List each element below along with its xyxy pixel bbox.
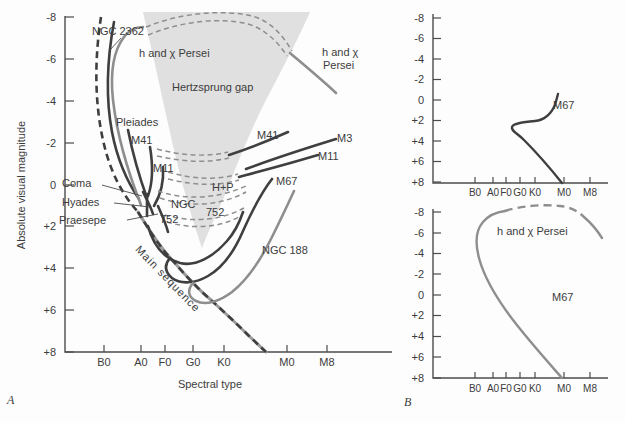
panel-b-top-axes xyxy=(433,14,608,183)
panel-b-bottom-y-tick-label: +4 xyxy=(398,330,424,343)
ngc188-label: NGC 188 xyxy=(262,244,308,257)
panel-a-y-tick-label: -4 xyxy=(30,95,56,108)
panel-a-letter: A xyxy=(7,394,14,407)
panel-b-bottom-y-tick-label: +8 xyxy=(398,372,424,385)
panel-b-letter: B xyxy=(404,396,411,409)
hertzsprung-gap-label: Hertzsprung gap xyxy=(172,81,253,94)
ngc752-label-line2: 752 xyxy=(160,213,178,226)
panel-b-top-x-tick-label: K0 xyxy=(524,186,546,199)
ngc2362-curve xyxy=(108,22,139,199)
panel-a-y-tick-label: +2 xyxy=(30,220,56,233)
panel-b-bottom-y-tick-label: -8 xyxy=(398,206,424,219)
panel-b-m67-annotation: M67 xyxy=(552,291,573,304)
panel-a-x-tick-label: F0 xyxy=(152,356,178,369)
panel-b-bottom-x-tick-label: M0 xyxy=(553,382,575,395)
panel-b-top-y-tick-label: -8 xyxy=(398,12,424,25)
panel-b-h-chi-dashed-curve xyxy=(505,205,584,217)
panel-b-top-y-tick-label: -4 xyxy=(398,53,424,66)
m3-label: M3 xyxy=(337,132,352,145)
hr-diagram-figure: NGC 2362 h and χ Persei Hertzsprung gap … xyxy=(0,0,625,423)
coma-label: Coma xyxy=(62,177,91,190)
m11-right-label: M11 xyxy=(318,150,339,163)
panel-b-bottom-y-tick-label: -6 xyxy=(398,227,424,240)
m41-left-curve xyxy=(148,147,152,196)
panel-b-bottom-x-tick-label: K0 xyxy=(524,382,546,395)
panel-a-x-tick-label: B0 xyxy=(91,356,117,369)
hyades-label: Hyades xyxy=(62,196,99,209)
panel-b-bottom-y-tick-label: +2 xyxy=(398,309,424,322)
praesepe-label: Praesepe xyxy=(59,214,106,227)
panel-b-top-y-tick-label: -6 xyxy=(398,32,424,45)
x-axis-title: Spectral type xyxy=(178,378,242,391)
panel-b-bottom-y-tick-label: -2 xyxy=(398,268,424,281)
panel-a-x-tick-label: K0 xyxy=(211,356,237,369)
panel-a-y-tick-label: +8 xyxy=(30,346,56,359)
panel-b-bottom-y-tick-label: -4 xyxy=(398,247,424,260)
panel-b-h-chi-label: h and χ Persei xyxy=(497,225,568,238)
ngc752-label-line1: NGC xyxy=(171,198,195,211)
panel-b-top-y-tick-label: +6 xyxy=(398,155,424,168)
panel-a-x-tick-label: M0 xyxy=(274,356,300,369)
panel-b-bottom-y-tick-label: 0 xyxy=(398,289,424,302)
panel-b-bottom-x-tick-label: M8 xyxy=(579,382,601,395)
panel-a-y-tick-label: -2 xyxy=(30,137,56,150)
panel-b-top-y-tick-label: -2 xyxy=(398,73,424,86)
panel-b-m67-label: M67 xyxy=(553,99,574,112)
panel-b-top-x-tick-label: M0 xyxy=(553,186,575,199)
y-axis-title: Absolute visual magnitude xyxy=(15,121,28,249)
panel-a-x-tick-label: G0 xyxy=(180,356,206,369)
h-chi-persei-right-label-line2: Persei xyxy=(323,59,354,72)
panel-a-y-tick-label: -6 xyxy=(30,53,56,66)
panel-a-y-tick-label: -8 xyxy=(30,11,56,24)
panel-b-h-chi-tail-curve xyxy=(584,217,602,238)
m11-left-label: M11 xyxy=(153,162,174,175)
panel-b-top-y-tick-label: +2 xyxy=(398,114,424,127)
panel-a-x-tick-label: M8 xyxy=(314,356,340,369)
h-chi-persei-right-label-line1: h and χ xyxy=(322,46,358,59)
panel-a-y-tick-label: +6 xyxy=(30,304,56,317)
752-dashed-label: 752 xyxy=(206,206,224,219)
panel-b-bottom-y-tick-label: +6 xyxy=(398,351,424,364)
panel-a-y-tick-label: +4 xyxy=(30,262,56,275)
panel-b-top-y-tick-label: +8 xyxy=(398,176,424,189)
panel-a-y-tick-label: 0 xyxy=(30,179,56,192)
h-plus-p-label: H+P xyxy=(212,181,234,194)
m41-left-label: M41 xyxy=(131,134,152,147)
panel-a-x-tick-label: A0 xyxy=(128,356,154,369)
panel-b-top-x-tick-label: M8 xyxy=(579,186,601,199)
panel-b-top-y-tick-label: 0 xyxy=(398,94,424,107)
m41-right-label: M41 xyxy=(257,129,278,142)
ngc2362-label: NGC 2362 xyxy=(92,25,144,38)
m67-label: M67 xyxy=(276,175,297,188)
pleiades-label: Pleiades xyxy=(116,116,158,129)
panel-b-top-y-tick-label: +4 xyxy=(398,135,424,148)
h-chi-persei-top-label: h and χ Persei xyxy=(139,47,210,60)
